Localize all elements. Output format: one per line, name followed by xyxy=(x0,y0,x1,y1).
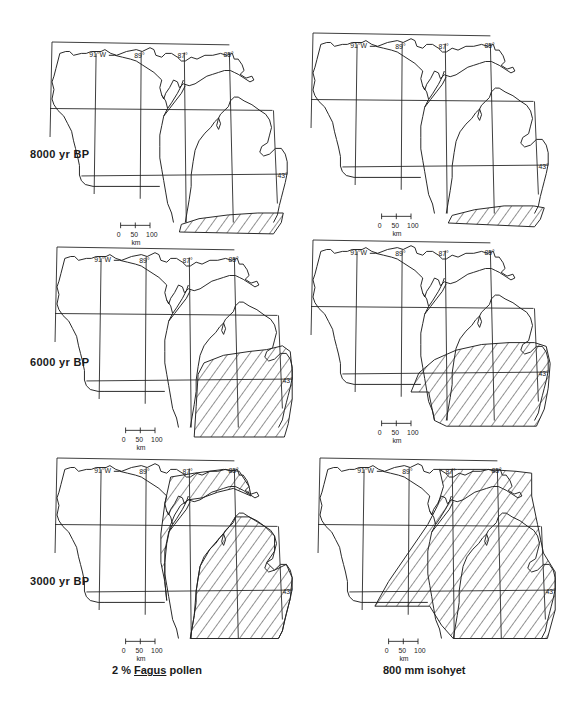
map-8000-fagus xyxy=(50,42,288,246)
row-label-8000: 8000 yr BP xyxy=(30,148,89,160)
caption-fagus: 2 % Fagus pollen xyxy=(112,664,202,676)
map-6000-isohyet xyxy=(311,240,550,444)
row-label-6000: 6000 yr BP xyxy=(30,356,89,368)
map-3000-fagus xyxy=(55,458,293,662)
map-6000-fagus xyxy=(55,247,293,451)
row-label-3000: 3000 yr BP xyxy=(30,575,89,587)
map-8000-isohyet xyxy=(311,33,549,237)
map-3000-isohyet xyxy=(318,458,556,662)
caption-isohyet: 800 mm isohyet xyxy=(383,664,466,676)
